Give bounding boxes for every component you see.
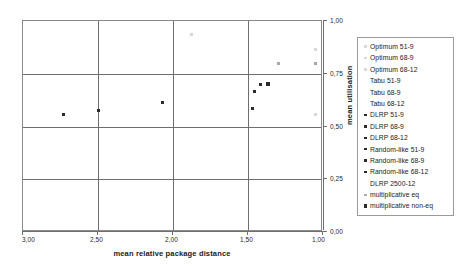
legend-marker-icon	[361, 178, 370, 189]
y-axis-tick-label: 1,00	[330, 17, 343, 24]
legend-item: multiplicative non-eq	[361, 200, 451, 211]
x-axis-tick	[97, 231, 98, 235]
data-point	[97, 109, 100, 112]
legend-marker-icon	[361, 109, 370, 120]
legend-marker-icon	[361, 166, 370, 177]
legend-item: DLRP 68-12	[361, 132, 451, 143]
legend-item-label: Tabu 68-12	[370, 98, 405, 109]
legend-marker-icon	[361, 189, 370, 200]
y-axis-tick	[323, 20, 327, 21]
x-axis-tick	[247, 231, 248, 235]
legend-item-label: multiplicative non-eq	[370, 200, 433, 211]
data-point	[266, 82, 270, 86]
x-axis-tick	[22, 231, 23, 235]
y-axis-tick	[323, 73, 327, 74]
legend-item-label: Random-like 68-12	[370, 166, 428, 177]
legend-item-label: DLRP 51-9	[370, 109, 404, 120]
legend-item: Optimum 68-9	[361, 52, 451, 63]
legend-item-label: DLRP 68-12	[370, 132, 408, 143]
legend-marker-icon	[361, 121, 370, 132]
legend-item-label: DLRP 2500-12	[370, 178, 415, 189]
legend-item: Random-like 68-9	[361, 155, 451, 166]
x-axis-title: mean relative package distance	[22, 249, 322, 258]
legend: Optimum 51-9Optimum 68-9Optimum 68-12Tab…	[357, 37, 454, 216]
legend-marker-icon	[361, 75, 370, 86]
data-point	[314, 48, 317, 51]
scatter-chart-figure: mean relative package distance mean util…	[0, 0, 459, 269]
legend-item: Tabu 68-12	[361, 98, 451, 109]
legend-marker-icon	[361, 144, 370, 155]
legend-marker-icon	[361, 64, 370, 75]
x-axis-tick-label: 3,00	[22, 236, 35, 243]
legend-item-label: Optimum 51-9	[370, 41, 414, 52]
y-axis-tick-label: 0,50	[330, 122, 343, 129]
legend-item: Tabu 68-9	[361, 87, 451, 98]
gridline-vertical	[173, 21, 174, 230]
data-point	[259, 83, 262, 86]
gridline-horizontal	[23, 74, 321, 75]
gridline-vertical	[248, 21, 249, 230]
data-point	[161, 101, 164, 104]
gridline-horizontal	[23, 179, 321, 180]
legend-marker-icon	[361, 87, 370, 98]
legend-item-label: Tabu 68-9	[370, 87, 401, 98]
legend-marker-icon	[361, 200, 370, 211]
data-point	[251, 107, 254, 110]
data-point	[277, 62, 280, 65]
y-axis-tick	[323, 126, 327, 127]
legend-item: DLRP 2500-12	[361, 178, 451, 189]
legend-item: Random-like 51-9	[361, 144, 451, 155]
data-point	[314, 113, 317, 116]
legend-item-label: Optimum 68-9	[370, 52, 414, 63]
y-axis-title: mean utilisation	[345, 66, 354, 126]
legend-marker-icon	[361, 98, 370, 109]
x-axis-tick-label: 2,00	[165, 236, 178, 243]
x-axis-tick-label: 1,50	[240, 236, 253, 243]
x-axis-tick-label: 1,00	[312, 236, 325, 243]
legend-item: multiplicative eq	[361, 189, 451, 200]
legend-item-label: Tabu 51-9	[370, 75, 401, 86]
x-axis-tick-label: 2,50	[90, 236, 103, 243]
legend-item: DLRP 51-9	[361, 109, 451, 120]
legend-item: Tabu 51-9	[361, 75, 451, 86]
legend-item-label: Optimum 68-12	[370, 64, 418, 75]
plot-area	[22, 20, 322, 231]
legend-item-label: Random-like 68-9	[370, 155, 424, 166]
y-axis-tick	[323, 231, 327, 232]
y-axis-tick-label: 0,25	[330, 175, 343, 182]
legend-marker-icon	[361, 52, 370, 63]
legend-item-label: DLRP 68-9	[370, 121, 404, 132]
legend-marker-icon	[361, 132, 370, 143]
y-axis-tick-label: 0,75	[330, 69, 343, 76]
legend-item-label: multiplicative eq	[370, 189, 419, 200]
legend-item-label: Random-like 51-9	[370, 144, 424, 155]
gridline-vertical	[98, 21, 99, 230]
legend-marker-icon	[361, 155, 370, 166]
data-point	[62, 113, 65, 116]
data-point	[190, 33, 193, 36]
x-axis-tick	[172, 231, 173, 235]
legend-item: Optimum 51-9	[361, 41, 451, 52]
legend-item: Random-like 68-12	[361, 166, 451, 177]
legend-item: Optimum 68-12	[361, 64, 451, 75]
data-point	[253, 90, 256, 93]
y-axis-tick-label: 0,00	[330, 228, 343, 235]
y-axis-tick	[323, 178, 327, 179]
gridline-horizontal	[23, 127, 321, 128]
legend-item: DLRP 68-9	[361, 121, 451, 132]
data-point	[314, 62, 317, 65]
legend-marker-icon	[361, 41, 370, 52]
